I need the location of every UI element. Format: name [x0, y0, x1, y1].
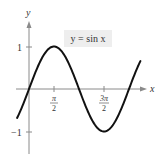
y-axis-arrow-icon — [27, 21, 32, 28]
x-tick-label-pi-over-2-den: 2 — [52, 104, 56, 113]
x-axis-label: x — [149, 83, 155, 94]
x-axis-arrow-icon — [140, 87, 147, 92]
y-tick-label-neg1: −1 — [11, 127, 22, 138]
y-axis-label: y — [25, 7, 31, 18]
sine-graph: x y 1 −1 π 2 3π 2 y = sin x — [0, 0, 161, 161]
y-tick-label-1: 1 — [17, 42, 22, 53]
function-label: y = sin x — [71, 33, 106, 44]
x-tick-label-pi-over-2-num: π — [52, 94, 57, 103]
x-tick-label-3pi-over-2-num: 3π — [99, 94, 109, 103]
x-tick-label-3pi-over-2-den: 2 — [102, 104, 106, 113]
